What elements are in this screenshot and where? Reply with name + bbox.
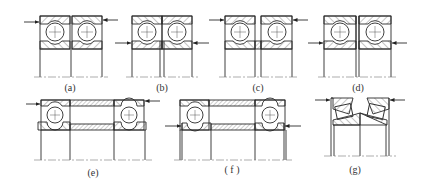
label-f: ( f ) — [225, 164, 240, 175]
panel-d — [308, 16, 407, 77]
label-a: (a) — [64, 82, 75, 93]
label-e: (e) — [87, 167, 98, 178]
label-d: (d) — [352, 82, 364, 93]
bearing-arrangements-diagram — [0, 0, 426, 190]
label-g: (g) — [349, 164, 361, 175]
panel-e — [26, 98, 160, 160]
panel-b — [115, 16, 209, 77]
panel-g — [315, 98, 405, 156]
panel-f — [165, 98, 301, 160]
label-c: (c) — [252, 82, 263, 93]
label-b: (b) — [156, 82, 168, 93]
panel-a — [24, 16, 118, 77]
panel-c — [209, 16, 308, 77]
